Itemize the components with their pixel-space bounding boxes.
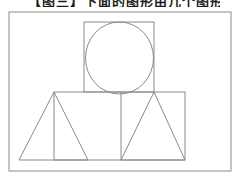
figure-page: 【图三】下面的图形由几个图形组成 bbox=[0, 0, 242, 183]
inscribed-circle bbox=[86, 22, 154, 94]
right-triangle bbox=[121, 92, 185, 160]
base-rectangle bbox=[54, 92, 185, 160]
geometry-diagram bbox=[0, 0, 242, 183]
